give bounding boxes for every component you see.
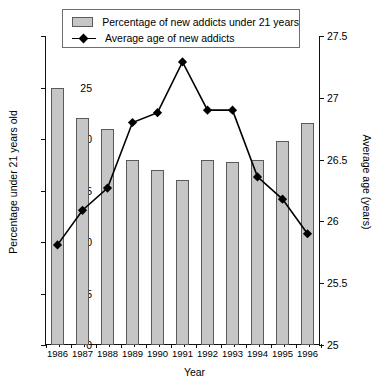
bar-1987	[76, 118, 89, 345]
bar-1995	[276, 141, 289, 345]
y-axis-right-tick-label: 27.5	[327, 31, 387, 42]
bar-1990	[151, 170, 164, 345]
legend-label-line: Average age of new addicts	[105, 32, 234, 44]
bar-1991	[176, 180, 189, 345]
bar-1986	[51, 88, 64, 346]
y-axis-right-tick	[319, 283, 324, 284]
bar-1996	[301, 123, 314, 345]
x-axis-title: Year	[0, 366, 389, 378]
y-axis-right-tick	[319, 221, 324, 222]
y-axis-right-title: Average age (years)	[361, 87, 373, 277]
x-axis-tick-label: 1996	[288, 349, 328, 359]
legend-label-bars: Percentage of new addicts under 21 years	[102, 16, 299, 28]
bar-1988	[101, 129, 114, 345]
y-axis-right-tick-label: 25.5	[327, 278, 387, 289]
bar-1989	[126, 160, 139, 345]
legend-item-bars: Percentage of new addicts under 21 years	[72, 14, 299, 30]
chart-legend: Percentage of new addicts under 21 years…	[62, 9, 300, 48]
y-axis-left-title: Percentage under 21 years old	[7, 87, 19, 277]
y-axis-right-tick-label: 26.5	[327, 155, 387, 166]
y-axis-right-tick-label: 26	[327, 216, 387, 227]
legend-item-line: Average age of new addicts	[72, 30, 299, 46]
bar-1992	[201, 160, 214, 345]
y-axis-right-tick-label: 27	[327, 93, 387, 104]
line-diamond-marker-icon	[72, 33, 96, 43]
y-axis-right-tick	[319, 98, 324, 99]
bar-swatch-icon	[72, 17, 93, 27]
bar-1994	[251, 160, 264, 345]
x-axis-tick	[321, 344, 322, 348]
chart-container: Percentage of new addicts under 21 years…	[0, 0, 389, 385]
y-axis-right-tick	[319, 160, 324, 161]
bar-1993	[226, 162, 239, 345]
y-axis-right-tick-label: 25	[327, 340, 387, 351]
y-axis-right-tick	[319, 36, 324, 37]
